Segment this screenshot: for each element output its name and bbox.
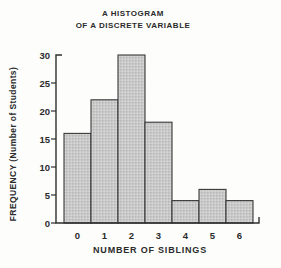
x-axis-title: NUMBER OF SIBLINGS [93,245,207,255]
y-tick-label: 15 [39,134,50,145]
y-tick-label: 0 [45,218,50,229]
x-tick-label: 6 [237,230,242,241]
bar-6 [226,201,253,223]
x-tick-label: 3 [156,230,161,241]
bar-0 [64,133,91,223]
bar-3 [145,122,172,223]
x-tick-label: 2 [129,230,134,241]
x-tick-label: 4 [183,230,189,241]
bar-5 [199,189,226,223]
bar-4 [172,201,199,223]
histogram-plot: 0510152025300123456 [0,0,281,268]
y-tick-label: 10 [39,162,50,173]
x-tick-label: 1 [102,230,108,241]
bar-2 [118,55,145,223]
y-tick-label: 30 [39,50,50,61]
y-tick-label: 5 [45,190,51,201]
histogram-figure: A HISTOGRAM OF A DISCRETE VARIABLE FREQU… [0,0,281,268]
bars-group [64,55,253,223]
x-tick-label: 5 [210,230,216,241]
y-tick-label: 25 [39,78,50,89]
y-tick-label: 20 [39,106,50,117]
bar-1 [91,100,118,223]
x-tick-label: 0 [75,230,80,241]
